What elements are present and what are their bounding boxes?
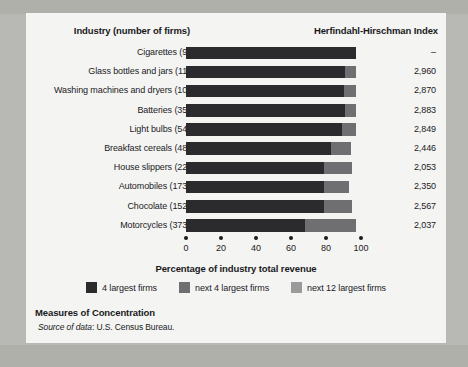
row-value-hhi: 2,849 [381,124,436,134]
figure-source: Source of data: U.S. Census Bureau. [38,322,174,332]
chart-row: Cigarettes (9)– [26,44,446,63]
axis-tick-label: 20 [207,243,235,253]
bar-segment [186,123,342,136]
chart-row: House slippers (22)2,053 [26,159,446,178]
chart-card: Industry (number of firms) Herfindahl-Hi… [26,13,446,343]
chart-row: Motorcycles (373)2,037 [26,217,446,236]
stacked-bar [186,104,361,117]
row-label-industry: Motorcycles (373) [26,220,190,230]
legend-label: next 12 largest firms [307,283,386,293]
row-label-industry: Light bulbs (54) [26,124,190,134]
stacked-bar [186,219,361,232]
axis-tick-dot [254,236,258,240]
row-label-industry: Automobiles (173) [26,181,190,191]
axis-tick-dot [359,236,363,240]
stacked-bar [186,85,361,98]
axis-tick-dot [219,236,223,240]
row-value-hhi: 2,350 [381,181,436,191]
row-label-industry: Batteries (35) [26,105,190,115]
bar-segment [324,181,349,194]
bar-segment [324,162,352,175]
bar-segment [324,200,352,213]
row-value-hhi: 2,053 [381,162,436,172]
bar-segment [345,66,356,79]
figure-title: Measures of Concentration [35,307,155,318]
legend-item: next 12 largest firms [291,282,386,293]
row-value-hhi: 2,960 [381,66,436,76]
chart-row: Washing machines and dryers (10)2,870 [26,82,446,101]
bar-segment [186,47,356,60]
legend-swatch-icon [179,282,190,293]
bar-segment [186,181,324,194]
page-background: Industry (number of firms) Herfindahl-Hi… [0,0,468,367]
chart-row: Breakfast cereals (48)2,446 [26,140,446,159]
chart-row: Glass bottles and jars (11)2,960 [26,63,446,82]
bar-segment [186,219,305,232]
legend-item: 4 largest firms [86,282,157,293]
bar-segment [186,162,324,175]
row-label-industry: Breakfast cereals (48) [26,143,190,153]
axis-tick-label: 60 [277,243,305,253]
column-header-industry: Industry (number of firms) [26,25,190,36]
bar-segment [186,142,331,155]
axis-tick-dot [184,236,188,240]
row-value-hhi: 2,883 [381,105,436,115]
legend-label: 4 largest firms [102,283,157,293]
row-value-hhi: – [381,47,436,57]
axis-tick-dot [324,236,328,240]
page-backdrop-bottom [0,345,468,367]
bar-segment [305,219,356,232]
stacked-bar [186,181,361,194]
stacked-bar [186,142,361,155]
axis-tick-label: 100 [347,243,375,253]
stacked-bar [186,123,361,136]
axis-tick-dot [289,236,293,240]
stacked-bar [186,162,361,175]
source-prefix: Source of data [38,322,92,332]
row-value-hhi: 2,037 [381,220,436,230]
column-header-hhi: Herfindahl-Hirschman Index [314,25,438,36]
bar-segment [345,104,356,117]
row-value-hhi: 2,446 [381,143,436,153]
axis-tick-label: 40 [242,243,270,253]
chart-row: Automobiles (173)2,350 [26,178,446,197]
row-label-industry: Cigarettes (9) [26,47,190,57]
axis-tick-label: 0 [172,243,200,253]
chart-row: Light bulbs (54)2,849 [26,121,446,140]
chart-row: Chocolate (152)2,567 [26,198,446,217]
row-value-hhi: 2,870 [381,85,436,95]
chart-rows: Cigarettes (9)–Glass bottles and jars (1… [26,44,446,236]
stacked-bar [186,200,361,213]
chart-header: Industry (number of firms) Herfindahl-Hi… [26,25,446,41]
row-label-industry: Glass bottles and jars (11) [26,66,190,76]
legend-swatch-icon [291,282,302,293]
row-label-industry: House slippers (22) [26,162,190,172]
bar-segment [342,123,356,136]
page-backdrop-top [0,0,468,14]
bar-segment [344,85,356,98]
stacked-bar [186,66,361,79]
chart-legend: 4 largest firmsnext 4 largest firmsnext … [26,282,446,293]
bar-segment [186,104,345,117]
x-axis-title: Percentage of industry total revenue [26,263,446,274]
bar-segment [186,200,324,213]
row-label-industry: Washing machines and dryers (10) [26,85,190,95]
row-label-industry: Chocolate (152) [26,201,190,211]
legend-item: next 4 largest firms [179,282,269,293]
axis-tick-label: 80 [312,243,340,253]
x-axis: 020406080100 [186,236,361,262]
legend-swatch-icon [86,282,97,293]
row-value-hhi: 2,567 [381,201,436,211]
bar-segment [186,85,344,98]
source-text: : U.S. Census Bureau. [92,322,174,332]
bar-segment [186,66,345,79]
stacked-bar [186,47,361,60]
bar-segment [331,142,350,155]
chart-row: Batteries (35)2,883 [26,102,446,121]
legend-label: next 4 largest firms [195,283,269,293]
